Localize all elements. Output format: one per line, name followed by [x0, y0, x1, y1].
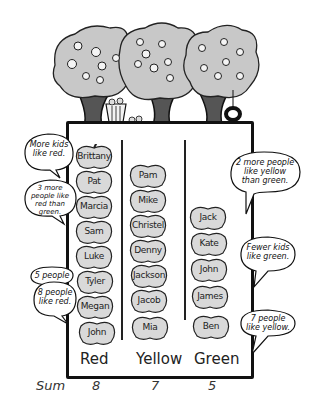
- bubble-crossed-text: 5 people: [32, 271, 72, 280]
- apple-name: Tyler: [75, 276, 115, 286]
- column-label-green: Green: [194, 350, 239, 368]
- apple-name: Pam: [128, 170, 168, 180]
- apple-name: Megan: [75, 301, 115, 311]
- apple-pictogram: Sam: [74, 219, 114, 245]
- apple-pictogram: Kate: [189, 231, 229, 257]
- column-label-red: Red: [80, 350, 109, 368]
- apple-pictogram: Mia: [130, 315, 170, 341]
- speech-bubble: More kids like red.: [22, 132, 74, 176]
- apple-name: John: [77, 327, 117, 337]
- apple-pictogram: James: [190, 284, 230, 310]
- apple-pictogram: Tyler: [75, 269, 115, 295]
- apple-pictogram: Pam: [128, 163, 168, 189]
- speech-bubble: 8 people like red.: [30, 280, 78, 324]
- apple-trees-icon: [50, 20, 265, 125]
- apple-name: Mia: [130, 322, 170, 332]
- apple-pictogram: Brittany: [74, 144, 114, 170]
- bubble-text: 8 people like red.: [36, 288, 74, 306]
- column-divider: [184, 140, 186, 320]
- sum-red: 8: [92, 378, 100, 393]
- sum-green: 5: [208, 378, 216, 393]
- column-divider: [121, 140, 123, 340]
- bubble-text: More kids like red.: [28, 140, 70, 158]
- apple-name: James: [190, 291, 230, 301]
- apple-name: Jacob: [129, 295, 169, 305]
- apple-pictogram: Jack: [188, 205, 228, 231]
- apple-pictogram: Jackson: [129, 263, 169, 289]
- sum-label: Sum: [36, 378, 65, 393]
- bubble-text: Fewer kids like green.: [244, 243, 292, 261]
- apple-pictogram: Jacob: [129, 288, 169, 314]
- apple-name: Christel: [128, 220, 168, 230]
- apple-pictogram: Megan: [75, 294, 115, 320]
- apple-name: Jackson: [129, 270, 169, 280]
- apple-pictogram: John: [189, 257, 229, 283]
- apple-name: Ben: [191, 321, 231, 331]
- apple-name: Marcia: [74, 201, 114, 211]
- bubble-text: 2 more people like yellow than green.: [234, 158, 296, 185]
- apple-name: John: [189, 264, 229, 274]
- pictograph-illustration: Brittany Pat Marcia Sam Luke Tyler Megan: [0, 0, 314, 414]
- apple-pictogram: Ben: [191, 314, 231, 340]
- apple-name: Mike: [128, 195, 168, 205]
- apple-name: Luke: [74, 251, 114, 261]
- apple-name: Sam: [74, 226, 114, 236]
- apple-name: Denny: [128, 245, 168, 255]
- apple-pictogram: John: [77, 320, 117, 346]
- apple-name: Brittany: [74, 151, 114, 161]
- speech-bubble: 7 people like yellow.: [238, 308, 296, 354]
- speech-bubble: 3 more people like red than green.: [22, 178, 76, 222]
- apple-name: Jack: [188, 212, 228, 222]
- bubble-text: 3 more people like red than green.: [26, 184, 74, 216]
- apple-pictogram: Denny: [128, 238, 168, 264]
- apple-pictogram: Mike: [128, 188, 168, 214]
- apple-pictogram: Luke: [74, 244, 114, 270]
- apple-pictogram: Marcia: [74, 194, 114, 220]
- speech-bubble: Fewer kids like green.: [238, 235, 296, 285]
- speech-bubble: 2 more people like yellow than green.: [228, 150, 300, 198]
- apple-pictogram: Pat: [74, 169, 114, 195]
- apple-pictogram: Christel: [128, 213, 168, 239]
- apple-name: Kate: [189, 238, 229, 248]
- apple-name: Pat: [74, 176, 114, 186]
- bubble-text: 7 people like yellow.: [244, 314, 292, 332]
- sum-yellow: 7: [151, 378, 159, 393]
- column-label-yellow: Yellow: [136, 350, 182, 368]
